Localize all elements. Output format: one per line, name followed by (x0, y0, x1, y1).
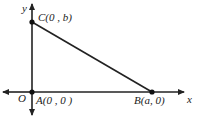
point-b-label: B(a, 0) (134, 94, 165, 107)
point-a (29, 89, 34, 94)
x-axis-label: x (186, 93, 192, 105)
segment-cb (32, 22, 152, 92)
coordinate-diagram: y x O C(0 , b) A(0 , 0 ) B(a, 0) (0, 0, 199, 121)
point-c (29, 19, 34, 24)
point-c-label: C(0 , b) (38, 11, 72, 24)
y-axis-label: y (21, 2, 27, 14)
point-a-label: A(0 , 0 ) (35, 94, 72, 107)
diagram-canvas: y x O C(0 , b) A(0 , 0 ) B(a, 0) (0, 0, 199, 121)
origin-label: O (18, 92, 26, 104)
